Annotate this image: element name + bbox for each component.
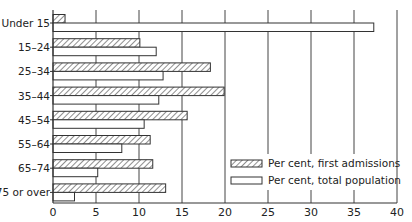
legend-swatch-first-admissions — [231, 160, 262, 167]
bar-total-population — [53, 96, 159, 105]
legend-label-total-population: Per cent, total population — [268, 174, 401, 186]
x-tick-label: 0 — [50, 206, 57, 219]
x-tick-label: 40 — [390, 206, 404, 219]
bar-first-admissions — [53, 87, 224, 96]
legend: Per cent, first admissions Per cent, tot… — [226, 154, 401, 190]
category-label: 55–64 — [18, 138, 50, 150]
bar-first-admissions — [53, 15, 65, 24]
category-label: 35–44 — [18, 90, 50, 102]
category-label: 65–74 — [18, 162, 50, 174]
bar-first-admissions — [53, 160, 153, 169]
bar-first-admissions — [53, 63, 210, 72]
bar-total-population — [53, 168, 98, 177]
category-label: 25–34 — [18, 65, 50, 77]
bar-first-admissions — [53, 184, 166, 193]
bar-first-admissions — [53, 111, 187, 120]
x-tick-label: 10 — [132, 206, 146, 219]
legend-label-first-admissions: Per cent, first admissions — [268, 157, 400, 169]
bar-first-admissions — [53, 39, 140, 48]
y-axis-category-labels: Under 1515–2425–3435–4445–5455–6465–7475… — [0, 17, 53, 198]
x-tick-label: 35 — [347, 206, 361, 219]
category-label: 75 or over — [0, 186, 51, 198]
x-tick-label: 30 — [304, 206, 318, 219]
bar-total-population — [53, 47, 156, 56]
legend-swatch-total-population — [231, 177, 262, 184]
category-label: 45–54 — [18, 114, 50, 126]
x-tick-label: 5 — [93, 206, 100, 219]
category-label: 15–24 — [18, 41, 50, 53]
x-tick-label: 20 — [218, 206, 232, 219]
bar-total-population — [53, 71, 163, 80]
bar-first-admissions — [53, 136, 150, 145]
category-label: Under 15 — [2, 17, 50, 29]
bar-chart: 0510152025303540 Under 1515–2425–3435–44… — [0, 0, 412, 222]
x-axis-ticks: 0510152025303540 — [50, 206, 405, 219]
x-tick-label: 15 — [175, 206, 189, 219]
bar-total-population — [53, 23, 374, 32]
bar-total-population — [53, 120, 144, 129]
bar-total-population — [53, 144, 122, 153]
x-tick-label: 25 — [261, 206, 275, 219]
bar-total-population — [53, 192, 75, 201]
